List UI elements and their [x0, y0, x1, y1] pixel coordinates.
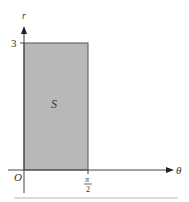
- theta-axis-arrow-icon: [166, 167, 174, 173]
- region-label: S: [51, 97, 57, 111]
- r-axis-arrow-icon: [21, 26, 27, 34]
- diagram-canvas: r 3 S O θ π 2: [0, 0, 189, 202]
- theta-axis-label: θ: [176, 164, 182, 176]
- theta-tick-numerator: π: [85, 175, 90, 184]
- r-axis-label: r: [22, 10, 26, 21]
- origin-label: O: [14, 171, 22, 183]
- theta-tick-denominator: 2: [86, 185, 90, 194]
- r-tick-label: 3: [11, 37, 17, 49]
